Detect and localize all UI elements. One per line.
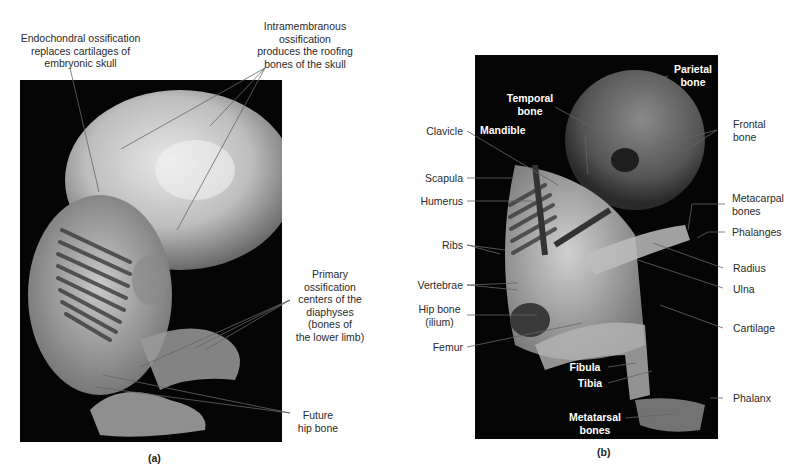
label-vertebrae: Vertebrae xyxy=(400,279,463,292)
label-mandible: Mandible xyxy=(480,124,526,137)
label-radius: Radius xyxy=(733,262,766,275)
label-phalanges: Phalanges xyxy=(732,226,782,239)
label-line: Endochondral ossification xyxy=(18,32,143,45)
label-line: embryonic skull xyxy=(18,57,143,70)
label-line: Parietal xyxy=(668,63,718,76)
label-line: (bones of xyxy=(290,318,370,331)
label-intramembranous-ossification: Intramembranous ossification produces th… xyxy=(255,20,355,70)
label-frontal-bone: Frontal bone xyxy=(733,118,766,143)
label-line: ossification xyxy=(255,33,355,46)
label-parietal-bone: Parietal bone xyxy=(668,63,718,88)
label-cartilage: Cartilage xyxy=(733,322,775,335)
label-metatarsal-bones: Metatarsal bones xyxy=(565,411,625,436)
label-primary-ossification-centers: Primary ossification centers of the diap… xyxy=(290,268,370,343)
label-tibia: Tibia xyxy=(570,377,610,390)
label-line: the lower limb) xyxy=(290,331,370,344)
label-ulna: Ulna xyxy=(733,283,755,296)
panel-a-photo xyxy=(20,80,282,442)
label-clavicle: Clavicle xyxy=(400,125,463,138)
label-line: Hip bone xyxy=(412,303,467,316)
label-line: centers of the xyxy=(290,293,370,306)
label-line: bone xyxy=(500,105,560,118)
label-line: bones of the skull xyxy=(255,58,355,71)
label-line: bones xyxy=(732,205,784,218)
label-metacarpal-bones: Metacarpal bones xyxy=(732,192,784,217)
label-endochondral-ossification: Endochondral ossification replaces carti… xyxy=(18,32,143,70)
label-phalanx: Phalanx xyxy=(733,392,771,405)
label-line: Frontal xyxy=(733,118,766,131)
label-line: produces the roofing xyxy=(255,45,355,58)
label-line: ossification xyxy=(290,281,370,294)
label-line: replaces cartilages of xyxy=(18,45,143,58)
label-scapula: Scapula xyxy=(400,172,463,185)
caption-panel-a: (a) xyxy=(148,452,161,464)
caption-panel-b: (b) xyxy=(597,446,610,458)
label-line: Metatarsal xyxy=(565,411,625,424)
label-line: Metacarpal xyxy=(732,192,784,205)
label-line: Temporal xyxy=(500,92,560,105)
label-line: hip bone xyxy=(293,422,343,435)
label-line: (ilium) xyxy=(412,316,467,329)
fetus-illustration-a xyxy=(20,80,282,442)
label-ribs: Ribs xyxy=(400,239,463,252)
label-temporal-bone: Temporal bone xyxy=(500,92,560,117)
label-line: Primary xyxy=(290,268,370,281)
label-line: bone xyxy=(668,76,718,89)
label-fibula: Fibula xyxy=(560,361,610,374)
label-humerus: Humerus xyxy=(400,195,463,208)
label-line: Intramembranous xyxy=(255,20,355,33)
label-line: diaphyses xyxy=(290,306,370,319)
label-future-hip-bone: Future hip bone xyxy=(293,409,343,434)
label-hip-bone-ilium: Hip bone (ilium) xyxy=(412,303,467,328)
label-femur: Femur xyxy=(400,341,463,354)
fetal-ossification-figure: Endochondral ossification replaces carti… xyxy=(0,0,797,475)
label-line: bone xyxy=(733,131,766,144)
label-line: Future xyxy=(293,409,343,422)
label-line: bones xyxy=(565,424,625,437)
